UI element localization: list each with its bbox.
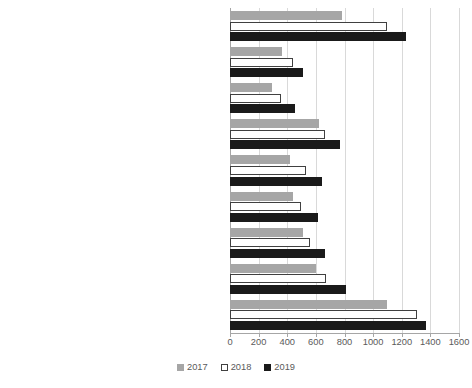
category-row: The number of enterprises that purchased…	[230, 8, 459, 44]
legend-label: 2019	[274, 362, 295, 372]
category-row: file storage service	[230, 152, 459, 188]
bar-2018	[230, 130, 325, 139]
bar-2019	[230, 140, 340, 149]
bar-2017	[230, 192, 293, 201]
category-row: The umber of enterprises that bought clo…	[230, 297, 459, 333]
bar-2019	[230, 249, 325, 258]
x-axis-tick	[316, 333, 317, 337]
gridline	[459, 8, 460, 333]
x-axis-tick	[259, 333, 260, 337]
bar-2017	[230, 119, 319, 128]
legend-label: 2018	[231, 362, 252, 372]
bar-2018	[230, 310, 417, 319]
bar-2018	[230, 22, 387, 31]
x-axis-tick	[430, 333, 431, 337]
bar-2017	[230, 300, 387, 309]
category-row: computer power for the operation of ente…	[230, 44, 459, 80]
x-axis-tick-label: 1600	[439, 337, 472, 347]
bar-2019	[230, 104, 295, 113]
x-axis-tick	[287, 333, 288, 337]
bar-2019	[230, 285, 346, 294]
legend-item-2018[interactable]: 2018	[221, 362, 252, 372]
category-row: financial or accounting applications	[230, 116, 459, 152]
plot-area: The number of enterprises that purchased…	[230, 8, 459, 333]
legend-item-2017[interactable]: 2017	[177, 362, 208, 372]
bar-2018	[230, 166, 306, 175]
bar-2019	[230, 321, 426, 330]
bar-2018	[230, 58, 293, 67]
category-row: customer relationship management program…	[230, 80, 459, 116]
x-axis-tick	[373, 333, 374, 337]
legend-swatch-icon	[221, 364, 228, 371]
x-axis-tick	[402, 333, 403, 337]
bar-2018	[230, 94, 281, 103]
category-row: Email	[230, 261, 459, 297]
bar-2018	[230, 238, 310, 247]
bar-2017	[230, 47, 282, 56]
bar-2017	[230, 228, 303, 237]
legend-swatch-icon	[264, 364, 271, 371]
bar-2019	[230, 68, 303, 77]
bar-2018	[230, 274, 326, 283]
x-axis-tick	[345, 333, 346, 337]
bar-2018	[230, 202, 301, 211]
bar-2017	[230, 155, 290, 164]
legend-item-2019[interactable]: 2019	[264, 362, 295, 372]
bar-2019	[230, 32, 406, 41]
bar-2017	[230, 11, 342, 20]
legend-swatch-icon	[177, 364, 184, 371]
category-row: office software	[230, 225, 459, 261]
bar-chart: The number of enterprises that purchased…	[0, 0, 472, 388]
bar-2017	[230, 264, 316, 273]
x-axis-tick	[459, 333, 460, 337]
x-axis-tick	[230, 333, 231, 337]
chart-legend: 201720182019	[0, 362, 472, 372]
category-row: enterprise database hosting	[230, 189, 459, 225]
bar-2019	[230, 213, 318, 222]
bar-2017	[230, 83, 272, 92]
legend-label: 2017	[187, 362, 208, 372]
bar-2019	[230, 177, 322, 186]
